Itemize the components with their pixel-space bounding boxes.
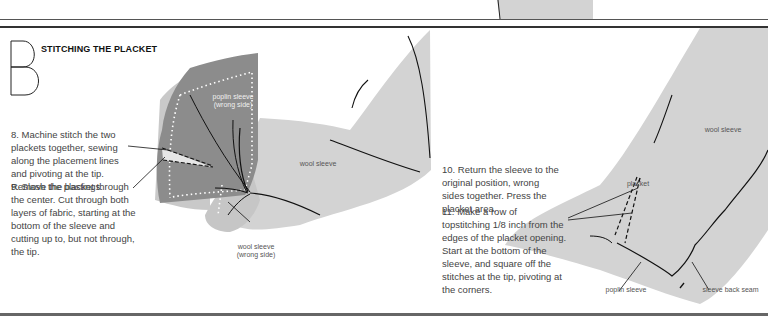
previous-illustration-fragment <box>497 0 593 19</box>
label-placket: placket <box>618 180 658 188</box>
label-wool-sleeve-wrong-side: wool sleeve (wrong side) <box>226 243 286 259</box>
label-line: poplin sleeve <box>203 93 263 101</box>
section-letter-b <box>9 40 43 96</box>
label-line: (wrong side) <box>203 101 263 109</box>
label-poplin-sleeve-wrong-side: poplin sleeve (wrong side) <box>203 93 263 109</box>
section-title: STITCHING THE PLACKET <box>41 44 157 54</box>
step-11-text: 11. Make a row of topstitching 1/8 inch … <box>442 205 567 296</box>
label-wool-sleeve-right: wool sleeve <box>693 126 753 134</box>
label-wool-sleeve-left: wool sleeve <box>288 160 348 168</box>
wool-sleeve-shape <box>230 30 431 230</box>
label-sleeve-back-seam: sleeve back seam <box>693 286 768 294</box>
label-line: (wrong side) <box>226 251 286 259</box>
step-9-text: 9. Slash the placket through the center.… <box>11 180 136 258</box>
label-line: wool sleeve <box>226 243 286 251</box>
label-poplin-sleeve: poplin sleeve <box>596 286 656 294</box>
